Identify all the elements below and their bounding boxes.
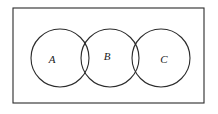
set-label-a: A [48, 53, 56, 65]
venn-diagram-canvas: A B C [0, 0, 218, 114]
venn-diagram-figure: A B C [0, 0, 218, 114]
set-label-c: C [160, 53, 168, 65]
set-label-b: B [104, 50, 111, 62]
